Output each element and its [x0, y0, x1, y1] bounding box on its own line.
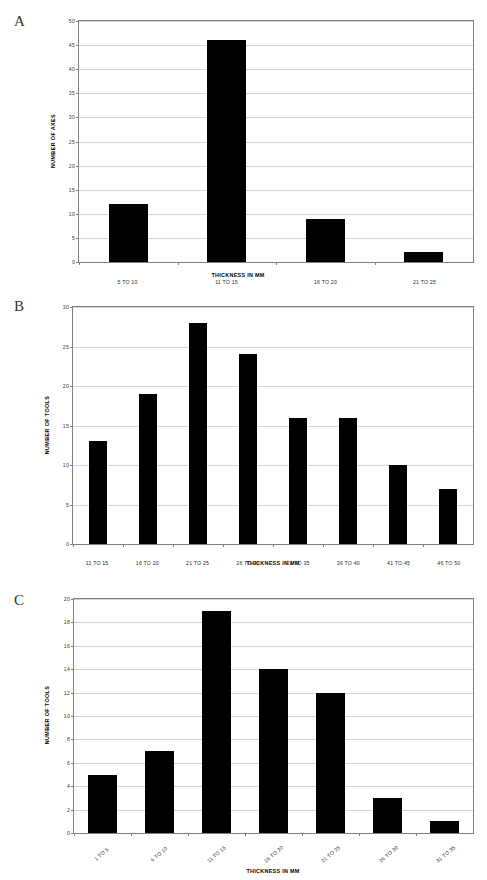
- bar-slot: [123, 307, 173, 544]
- x-tick-label: 46 TO 50: [437, 560, 460, 566]
- bar-slot: [131, 599, 188, 833]
- chart-b: 051015202530 NUMBER OF TOOLS THICKNESS I…: [0, 292, 487, 572]
- x-label-slot: 46 TO 50: [424, 551, 474, 569]
- x-tick-label: 11 TO 15: [86, 560, 109, 566]
- bar-slot: [323, 307, 373, 544]
- y-tick-label: 20: [64, 596, 70, 602]
- bar[interactable]: [306, 219, 345, 262]
- x-label-slot: 21 TO 25: [375, 270, 474, 288]
- y-axis-title-a: NUMBER OF AXES: [49, 19, 55, 262]
- bar[interactable]: [88, 775, 117, 834]
- x-tick-label: 6 TO 10: [149, 845, 168, 862]
- y-tick-label: 20: [63, 383, 69, 389]
- bar[interactable]: [259, 669, 288, 833]
- panel-c: C 02468101214161820 NUMBER OF TOOLS THIC…: [0, 572, 487, 880]
- bar[interactable]: [430, 821, 459, 833]
- bar-slot: [245, 599, 302, 833]
- figure-page: { "figure": { "panels": [ { "letter": "A…: [0, 0, 487, 880]
- x-tick-mark: [302, 833, 303, 836]
- y-axis-title-c: NUMBER OF TOOLS: [44, 597, 50, 833]
- bar[interactable]: [239, 354, 257, 544]
- x-label-slot: 26 TO 30: [359, 842, 416, 860]
- y-axis-title-b: NUMBER OF TOOLS: [43, 305, 49, 544]
- bar-slot: [375, 21, 474, 262]
- y-tick-label: 30: [63, 304, 69, 310]
- y-tick-label: 18: [64, 619, 70, 625]
- bar-slot: [359, 599, 416, 833]
- bar-slot: [79, 21, 178, 262]
- x-tick-mark: [416, 833, 417, 836]
- x-label-slot: 6 TO 10: [130, 842, 187, 860]
- x-label-slot: 16 TO 20: [122, 551, 172, 569]
- y-tick-label: 15: [69, 187, 75, 193]
- x-tick-mark: [178, 262, 179, 265]
- bar[interactable]: [207, 40, 246, 262]
- bar-slot: [373, 307, 423, 544]
- x-tick-labels-c: 1 TO 56 TO 1011 TO 1516 TO 2021 TO 2526 …: [73, 842, 474, 860]
- y-tick-label: 6: [67, 760, 70, 766]
- chart-a: 05101520253035404550 NUMBER OF AXES THIC…: [0, 0, 487, 292]
- bar[interactable]: [89, 441, 107, 544]
- bar[interactable]: [109, 204, 148, 262]
- x-tick-label: 21 TO 25: [413, 279, 436, 285]
- x-label-slot: 21 TO 25: [173, 551, 223, 569]
- bar-slot: [423, 307, 473, 544]
- bar[interactable]: [339, 418, 357, 544]
- y-tick-label: 40: [69, 66, 75, 72]
- gridline: [74, 833, 473, 834]
- x-tick-label: 21 TO 25: [186, 560, 209, 566]
- x-label-slot: 16 TO 20: [245, 842, 302, 860]
- y-tick-label: 10: [64, 713, 70, 719]
- x-tick-mark: [131, 833, 132, 836]
- x-tick-mark: [73, 544, 74, 547]
- bar[interactable]: [189, 323, 207, 544]
- x-tick-label: 26 TO 30: [377, 844, 399, 863]
- bar-slot: [273, 307, 323, 544]
- bar[interactable]: [202, 611, 231, 833]
- x-tick-mark: [276, 262, 277, 265]
- x-tick-label: 16 TO 20: [136, 560, 159, 566]
- bar-slot: [173, 307, 223, 544]
- x-tick-mark: [74, 833, 75, 836]
- bar[interactable]: [389, 465, 407, 544]
- bar[interactable]: [289, 418, 307, 544]
- x-tick-mark: [273, 544, 274, 547]
- x-tick-mark: [79, 262, 80, 265]
- x-tick-mark: [373, 544, 374, 547]
- y-tick-label: 4: [67, 783, 70, 789]
- x-tick-label: 36 TO 40: [337, 560, 360, 566]
- bar[interactable]: [139, 394, 157, 544]
- panel-b: B 051015202530 NUMBER OF TOOLS THICKNESS…: [0, 292, 487, 572]
- y-tick-label: 12: [64, 690, 70, 696]
- chart-c: 02468101214161820 NUMBER OF TOOLS THICKN…: [0, 572, 487, 880]
- y-tick-label: 20: [69, 163, 75, 169]
- y-tick-label: 0: [72, 259, 75, 265]
- bar[interactable]: [316, 693, 345, 833]
- x-tick-label: 31 TO 35: [435, 844, 457, 863]
- bar[interactable]: [145, 751, 174, 833]
- x-label-slot: 36 TO 40: [323, 551, 373, 569]
- panel-a: A 05101520253035404550 NUMBER OF AXES TH…: [0, 0, 487, 292]
- y-tick-label: 0: [67, 830, 70, 836]
- bar[interactable]: [439, 489, 457, 544]
- x-tick-label: 41 TO 45: [387, 560, 410, 566]
- y-tick-label: 5: [66, 502, 69, 508]
- plot-area-a: 05101520253035404550: [78, 20, 474, 263]
- y-tick-label: 10: [63, 462, 69, 468]
- x-tick-label: 16 TO 20: [314, 279, 337, 285]
- y-tick-label: 45: [69, 42, 75, 48]
- x-tick-label: 5 TO 10: [118, 279, 138, 285]
- bar-slot: [74, 599, 131, 833]
- y-tick-label: 5: [72, 235, 75, 241]
- y-tick-label: 2: [67, 807, 70, 813]
- y-tick-label: 16: [64, 643, 70, 649]
- x-tick-labels-a: 5 TO 1011 TO 1516 TO 2021 TO 25: [78, 270, 474, 288]
- bar[interactable]: [404, 252, 443, 262]
- x-label-slot: 11 TO 15: [188, 842, 245, 860]
- x-label-slot: 26 TO 30: [223, 551, 273, 569]
- x-tick-label: 16 TO 20: [263, 844, 285, 863]
- y-tick-label: 14: [64, 666, 70, 672]
- bar-series: [73, 307, 473, 544]
- plot-area-b: 051015202530: [72, 306, 474, 545]
- bar[interactable]: [373, 798, 402, 833]
